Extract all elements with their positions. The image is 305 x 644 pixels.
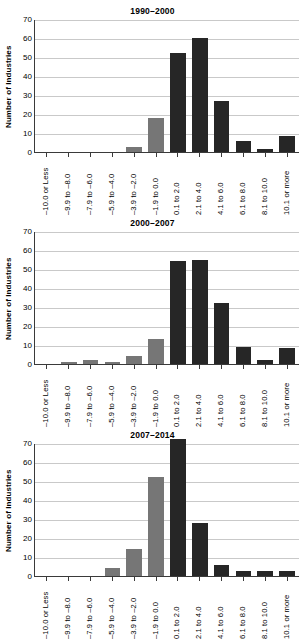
plot-area <box>34 444 299 577</box>
x-tick <box>79 577 101 581</box>
bar-cell <box>101 444 123 576</box>
x-tick <box>79 365 101 369</box>
y-tick-label: 60 <box>23 247 32 255</box>
x-label-cell: –3.9 to –2.0 <box>123 371 145 427</box>
bar-cell <box>36 20 58 152</box>
x-tick <box>145 153 167 157</box>
bar-cell <box>80 20 102 152</box>
y-tick-label: 40 <box>23 73 32 81</box>
y-tick-label: 30 <box>23 92 32 100</box>
bar-cell <box>145 20 167 152</box>
y-axis-label: Number of Industries <box>2 446 14 576</box>
x-label-cell: 6.1 to 8.0 <box>232 371 254 427</box>
x-label-cell: –1.9 to 0.0 <box>145 159 167 215</box>
x-axis-ticks <box>34 365 299 369</box>
x-tick <box>210 153 232 157</box>
x-label-cell: –10.0 or Less <box>35 159 57 215</box>
bar <box>148 118 164 152</box>
x-tick <box>123 153 145 157</box>
bar <box>105 568 121 576</box>
x-label-cell: 4.1 to 6.0 <box>210 159 232 215</box>
x-tick-label: 2.1 to 4.0 <box>195 583 203 639</box>
y-tick-label: 70 <box>23 440 32 448</box>
bar-cell <box>123 444 145 576</box>
y-axis-ticks: 706050403020100 <box>14 232 32 366</box>
y-tick-label: 20 <box>23 111 32 119</box>
x-tick <box>57 365 79 369</box>
x-tick-label: 10.1 or more <box>283 159 291 215</box>
x-tick-label: –5.9 to –4.0 <box>108 583 116 639</box>
x-label-cell: 10.1 or more <box>276 371 298 427</box>
x-label-cell: 8.1 to 10.0 <box>254 583 276 639</box>
y-tick-label: 40 <box>23 285 32 293</box>
x-tick <box>210 365 232 369</box>
x-label-cell: –5.9 to –4.0 <box>101 371 123 427</box>
x-tick <box>232 153 254 157</box>
x-tick <box>276 153 298 157</box>
x-label-cell: –1.9 to 0.0 <box>145 371 167 427</box>
x-tick <box>145 577 167 581</box>
bar <box>148 339 164 364</box>
bar <box>214 565 230 576</box>
bar <box>105 362 121 364</box>
bar-cell <box>58 232 80 364</box>
y-tick-label: 10 <box>23 342 32 350</box>
x-tick <box>167 153 189 157</box>
bar-cell <box>189 232 211 364</box>
x-tick <box>188 577 210 581</box>
bar-cell <box>189 444 211 576</box>
x-label-cell: –9.9 to –8.0 <box>57 371 79 427</box>
bar-cell <box>189 20 211 152</box>
x-tick <box>57 577 79 581</box>
bar <box>61 362 77 364</box>
x-tick-label: 10.1 or more <box>283 371 291 427</box>
x-axis-labels: –10.0 or Less–9.9 to –8.0–7.9 to –6.0–5.… <box>34 159 299 215</box>
x-tick-label: 8.1 to 10.0 <box>261 159 269 215</box>
x-tick-label: –7.9 to –6.0 <box>86 159 94 215</box>
x-tick <box>276 577 298 581</box>
plot-area <box>34 20 299 153</box>
x-label-cell: –5.9 to –4.0 <box>101 583 123 639</box>
chart-title: 2007–2014 <box>0 430 305 440</box>
x-label-cell: 2.1 to 4.0 <box>188 159 210 215</box>
bar <box>148 477 164 576</box>
bar-cell <box>254 444 276 576</box>
bar <box>126 147 142 152</box>
bar <box>170 53 186 152</box>
x-tick-label: 0.1 to 2.0 <box>173 159 181 215</box>
bar <box>192 260 208 365</box>
bar-cell <box>101 20 123 152</box>
y-axis-ticks: 706050403020100 <box>14 20 32 154</box>
bar <box>279 348 295 364</box>
bar-cell <box>276 20 298 152</box>
bar <box>279 136 295 152</box>
x-tick <box>210 577 232 581</box>
x-tick-label: –9.9 to –8.0 <box>64 583 72 639</box>
x-tick-label: –5.9 to –4.0 <box>108 371 116 427</box>
x-label-cell: 2.1 to 4.0 <box>188 583 210 639</box>
y-axis-label: Number of Industries <box>2 234 14 364</box>
x-label-cell: –3.9 to –2.0 <box>123 159 145 215</box>
plot-area <box>34 232 299 365</box>
y-tick-label: 10 <box>23 130 32 138</box>
x-label-cell: –1.9 to 0.0 <box>145 583 167 639</box>
x-label-cell: –7.9 to –6.0 <box>79 583 101 639</box>
x-label-cell: –9.9 to –8.0 <box>57 159 79 215</box>
x-tick-label: –3.9 to –2.0 <box>130 159 138 215</box>
x-tick-label: –9.9 to –8.0 <box>64 371 72 427</box>
y-tick-label: 0 <box>28 573 32 581</box>
x-tick-label: –9.9 to –8.0 <box>64 159 72 215</box>
x-label-cell: –5.9 to –4.0 <box>101 159 123 215</box>
y-tick-label: 50 <box>23 478 32 486</box>
x-tick-label: 2.1 to 4.0 <box>195 371 203 427</box>
bar <box>214 303 230 364</box>
bar-cell <box>145 232 167 364</box>
x-tick-label: 6.1 to 8.0 <box>239 159 247 215</box>
x-tick <box>35 577 57 581</box>
y-tick-label: 0 <box>28 149 32 157</box>
x-tick <box>167 365 189 369</box>
bar-cell <box>80 444 102 576</box>
bar-cell <box>58 20 80 152</box>
y-tick-label: 20 <box>23 323 32 331</box>
x-tick-label: 4.1 to 6.0 <box>217 159 225 215</box>
